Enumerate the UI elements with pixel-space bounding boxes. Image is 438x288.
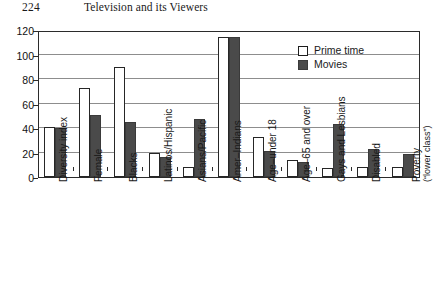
x-axis-label-5: Amer–Indians	[233, 120, 244, 182]
page-title: Television and its Viewers	[84, 1, 208, 13]
y-tick-label-100: 100	[4, 51, 34, 61]
legend-label-movies: Movies	[314, 59, 347, 70]
x-axis-label-7: Age–65 and over	[302, 106, 313, 182]
y-tick-label-40: 40	[4, 124, 34, 134]
legend-item-movies: Movies	[298, 58, 408, 71]
bar-prime-time	[287, 160, 298, 177]
page-number: 224	[22, 1, 40, 13]
legend-swatch-prime-time-icon	[298, 46, 308, 56]
bar-chart: 020406080100120 Prime time Movies Divers…	[0, 20, 438, 288]
x-label-sub: (“lower class”)	[422, 125, 432, 182]
x-tick-mark	[316, 167, 317, 171]
x-axis-label-2: Blacks	[129, 153, 140, 182]
legend-swatch-movies-icon	[298, 60, 308, 70]
x-axis-label-0: Diversity index	[59, 117, 70, 182]
x-tick-mark	[385, 167, 386, 171]
x-axis-label-10: Poverty(“lower class”)	[412, 125, 432, 182]
legend-item-prime-time: Prime time	[298, 44, 408, 57]
chart-legend: Prime time Movies	[298, 44, 408, 72]
bar-prime-time	[114, 67, 125, 177]
x-axis-label-9: Disabled	[372, 143, 383, 182]
x-tick-mark	[107, 167, 108, 171]
x-label-main: Poverty	[411, 148, 422, 182]
y-tick-label-80: 80	[4, 75, 34, 85]
bar-prime-time	[253, 137, 264, 177]
bar-prime-time	[183, 167, 194, 177]
x-tick-mark	[177, 167, 178, 171]
x-tick-mark	[281, 167, 282, 171]
y-tick-label-60: 60	[4, 100, 34, 110]
bar-prime-time	[149, 153, 160, 178]
legend-label-prime-time: Prime time	[314, 45, 364, 56]
bar-prime-time	[357, 167, 368, 177]
running-header: 224 Television and its Viewers	[0, 0, 438, 20]
x-tick-mark	[246, 167, 247, 171]
y-tick-label-120: 120	[4, 26, 34, 36]
bar-prime-time	[322, 168, 333, 177]
x-axis-label-3: Latinos/Hispanic	[164, 109, 175, 182]
x-axis-label-8: Gays and Lesbians	[337, 96, 348, 182]
bar-prime-time	[218, 37, 229, 177]
bar-prime-time	[44, 127, 55, 177]
x-tick-mark	[351, 167, 352, 171]
y-tick-label-20: 20	[4, 149, 34, 159]
x-tick-mark	[142, 167, 143, 171]
bar-prime-time	[392, 167, 403, 177]
y-tick-label-0: 0	[4, 173, 34, 183]
x-axis-label-4: Asians/Pacific	[198, 120, 209, 182]
x-tick-mark	[73, 167, 74, 171]
y-tick-mark-0	[33, 178, 38, 179]
x-axis-label-6: Age–under 18	[268, 119, 279, 182]
bar-prime-time	[79, 88, 90, 177]
x-axis-label-1: Female	[94, 149, 105, 182]
x-tick-mark	[212, 167, 213, 171]
